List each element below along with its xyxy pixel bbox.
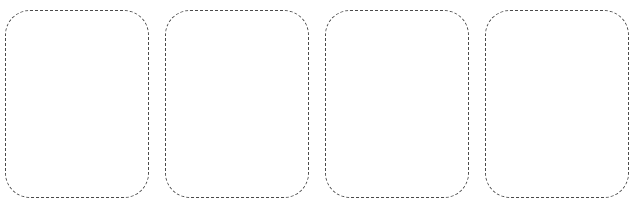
placeholder-card-4-label [486,11,628,197]
placeholder-card-row [0,0,637,207]
placeholder-card-3-label [326,11,468,197]
placeholder-card-2[interactable] [165,10,309,198]
placeholder-canvas [0,0,637,207]
placeholder-card-2-label [166,11,308,197]
placeholder-card-3[interactable] [325,10,469,198]
placeholder-card-4[interactable] [485,10,629,198]
placeholder-card-1[interactable] [5,10,149,198]
placeholder-card-1-label [6,11,148,197]
